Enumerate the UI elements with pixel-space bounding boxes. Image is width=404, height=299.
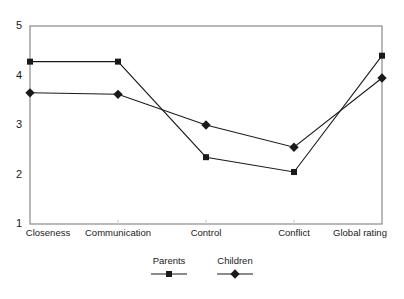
x-category-label: Closeness	[26, 228, 70, 238]
series-layer	[25, 53, 386, 175]
x-axis-ticks	[118, 220, 294, 224]
data-point-marker	[113, 90, 122, 99]
data-point-marker	[291, 169, 297, 175]
x-category-label: Conflict	[278, 228, 310, 238]
x-category-label: Communication	[85, 228, 151, 238]
series-parents	[27, 53, 385, 175]
y-tick-label: 4	[4, 70, 22, 81]
y-tick-label: 1	[4, 218, 22, 229]
legend-entry-parents: Parents	[141, 255, 197, 280]
data-point-marker	[27, 59, 33, 65]
data-point-marker	[115, 59, 121, 65]
legend-label: Children	[217, 255, 252, 266]
data-point-marker	[201, 120, 210, 129]
x-category-label: Global rating	[333, 228, 387, 238]
line-chart: 54321 ClosenessCommunicationControlConfl…	[0, 0, 404, 299]
data-point-marker	[203, 154, 209, 160]
y-tick-label: 3	[4, 119, 22, 130]
y-tick-label: 2	[4, 169, 22, 180]
legend-entry-children: Children	[207, 255, 263, 280]
data-point-marker	[379, 53, 385, 59]
series-children	[25, 73, 386, 152]
chart-legend: ParentsChildren	[0, 255, 404, 280]
y-tick-label: 5	[4, 20, 22, 31]
legend-swatch-diamond	[213, 268, 257, 280]
legend-swatch-square	[147, 268, 191, 280]
legend-label: Parents	[153, 255, 186, 266]
x-category-label: Control	[191, 228, 222, 238]
data-point-marker	[25, 88, 34, 97]
series-line	[30, 78, 382, 147]
